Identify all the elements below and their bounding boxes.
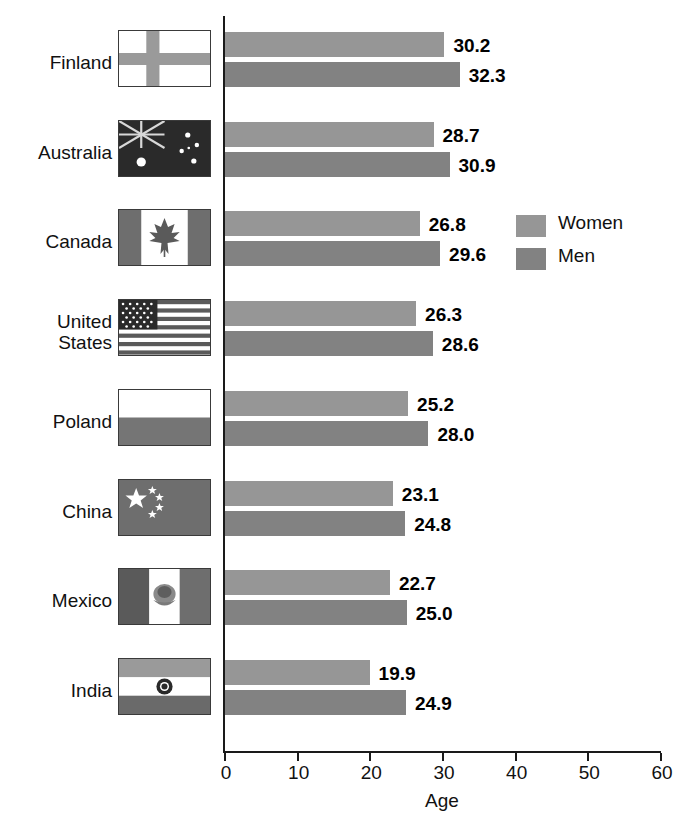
bar-men-china	[225, 511, 405, 536]
legend-swatch-men-icon	[516, 248, 546, 270]
country-label-mexico: Mexico	[2, 590, 112, 611]
bar-value-women: 25.2	[417, 394, 454, 416]
country-label-line: Canada	[2, 231, 112, 252]
x-axis-title: Age	[223, 790, 661, 812]
x-tick-label-60: 60	[642, 762, 682, 784]
x-tick-40	[515, 753, 517, 761]
x-tick-label-10: 10	[279, 762, 319, 784]
bar-women-india	[225, 660, 370, 685]
x-tick-20	[369, 753, 371, 761]
x-tick-label-50: 50	[569, 762, 609, 784]
bar-value-men: 30.9	[459, 155, 496, 177]
country-label-china: China	[2, 501, 112, 522]
legend-label-men: Men	[558, 245, 595, 267]
x-tick-label-30: 30	[424, 762, 464, 784]
x-tick-label-20: 20	[351, 762, 391, 784]
x-tick-label-40: 40	[497, 762, 537, 784]
bar-men-india	[225, 690, 406, 715]
bar-women-poland	[225, 391, 408, 416]
bar-men-canada	[225, 241, 440, 266]
bar-value-men: 28.0	[437, 424, 474, 446]
legend-label-women: Women	[558, 212, 623, 234]
country-label-india: India	[2, 680, 112, 701]
finland-flag	[118, 30, 211, 87]
x-tick-10	[297, 753, 299, 761]
x-tick-label-0: 0	[206, 762, 246, 784]
country-label-line: Australia	[2, 142, 112, 163]
bar-women-canada	[225, 211, 420, 236]
india-flag	[118, 658, 211, 715]
bar-women-mexico	[225, 570, 390, 595]
country-label-line: Mexico	[2, 590, 112, 611]
country-label-canada: Canada	[2, 231, 112, 252]
bar-men-mexico	[225, 600, 407, 625]
bar-men-poland	[225, 421, 428, 446]
bar-value-women: 28.7	[443, 125, 480, 147]
bar-value-women: 19.9	[379, 663, 416, 685]
legend-swatch-women-icon	[516, 215, 546, 237]
bar-women-china	[225, 481, 393, 506]
x-tick-0	[224, 753, 226, 761]
bar-women-united-states	[225, 301, 416, 326]
bar-value-men: 24.9	[415, 693, 452, 715]
canada-flag	[118, 209, 211, 266]
country-label-united-states: UnitedStates	[2, 311, 112, 353]
bar-men-australia	[225, 152, 450, 177]
china-flag	[118, 479, 211, 536]
mexico-flag	[118, 568, 211, 625]
poland-flag	[118, 389, 211, 446]
bar-value-men: 29.6	[449, 244, 486, 266]
bar-value-women: 22.7	[399, 573, 436, 595]
country-label-poland: Poland	[2, 411, 112, 432]
bar-value-men: 25.0	[416, 603, 453, 625]
bar-value-women: 30.2	[453, 35, 490, 57]
bar-value-women: 23.1	[402, 484, 439, 506]
australia-flag	[118, 120, 211, 177]
country-label-line: Finland	[2, 52, 112, 73]
country-label-finland: Finland	[2, 52, 112, 73]
bar-men-finland	[225, 62, 460, 87]
x-tick-30	[442, 753, 444, 761]
country-label-australia: Australia	[2, 142, 112, 163]
bar-value-women: 26.3	[425, 304, 462, 326]
bar-value-men: 28.6	[442, 334, 479, 356]
country-label-line: Poland	[2, 411, 112, 432]
country-label-line: China	[2, 501, 112, 522]
bar-value-men: 32.3	[469, 65, 506, 87]
country-label-line: States	[2, 332, 112, 353]
bar-value-women: 26.8	[429, 214, 466, 236]
x-tick-60	[660, 753, 662, 761]
bar-chart: 0102030405060 Age Finland30.232.3Austral…	[0, 0, 686, 834]
bar-women-finland	[225, 32, 444, 57]
bar-value-men: 24.8	[414, 514, 451, 536]
bar-men-united-states	[225, 331, 433, 356]
united-states-flag	[118, 299, 211, 356]
country-label-line: United	[2, 311, 112, 332]
x-tick-50	[587, 753, 589, 761]
country-label-line: India	[2, 680, 112, 701]
bar-women-australia	[225, 122, 434, 147]
